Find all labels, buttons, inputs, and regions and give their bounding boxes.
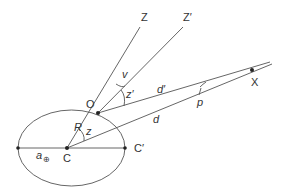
diagram-canvas: Z Z′ v z′ O d′ p X R z d a ⊕ C C′ bbox=[0, 0, 293, 196]
point-c bbox=[65, 146, 69, 150]
angle-z-prime-arc bbox=[121, 90, 125, 106]
label-z-prime-angle: z′ bbox=[125, 88, 135, 100]
point-o bbox=[96, 111, 100, 115]
point-left bbox=[16, 146, 20, 150]
label-z: Z bbox=[141, 11, 148, 23]
label-d: d bbox=[153, 113, 160, 125]
label-a: a bbox=[36, 149, 42, 161]
point-c-prime bbox=[123, 146, 127, 150]
angle-v-arc bbox=[116, 84, 125, 87]
label-z-prime: Z′ bbox=[183, 11, 192, 23]
label-p: p bbox=[196, 96, 203, 108]
label-c: C bbox=[63, 152, 71, 164]
label-o: O bbox=[86, 98, 95, 110]
label-v: v bbox=[122, 68, 129, 80]
label-d-prime: d′ bbox=[157, 83, 166, 95]
label-x: X bbox=[251, 76, 259, 88]
line-c-to-x bbox=[67, 64, 272, 148]
label-earth-symbol: ⊕ bbox=[43, 155, 50, 164]
label-c-prime: C′ bbox=[134, 142, 144, 154]
point-x bbox=[250, 68, 254, 72]
label-z-angle: z bbox=[85, 125, 92, 137]
label-r: R bbox=[74, 121, 82, 133]
